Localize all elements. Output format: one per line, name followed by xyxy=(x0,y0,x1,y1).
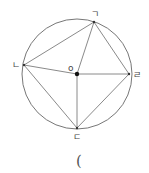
point-r xyxy=(128,73,130,75)
side-r-g xyxy=(94,22,129,74)
answer-paren: ( xyxy=(76,152,82,170)
circle-diagram: ㄱ ㄴ o ㄹ ㄷ xyxy=(0,0,149,150)
label-o: o xyxy=(68,63,74,73)
label-r: ㄹ xyxy=(133,70,141,80)
point-g xyxy=(93,21,95,23)
label-d: ㄷ xyxy=(73,132,81,142)
radius-o-g xyxy=(77,22,94,74)
side-g-n xyxy=(24,22,94,65)
point-d xyxy=(76,127,78,129)
center-point-o xyxy=(75,72,79,76)
label-n: ㄴ xyxy=(12,60,20,70)
label-g: ㄱ xyxy=(91,9,99,19)
side-d-r xyxy=(77,74,129,128)
side-n-d xyxy=(24,65,77,128)
point-n xyxy=(23,64,25,66)
